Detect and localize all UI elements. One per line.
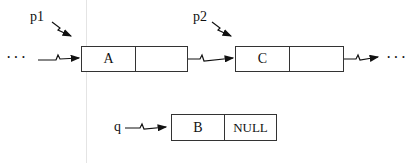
ellipsis-left: ··· <box>6 50 28 66</box>
pointer-label-p2: p2 <box>193 10 207 24</box>
pointer-label-q: q <box>114 120 121 134</box>
q-pointer-arrow <box>125 124 166 129</box>
node-next-cell <box>289 47 343 71</box>
list-node-C: C <box>235 46 344 72</box>
ellipsis-right: ··· <box>386 50 408 66</box>
p1-pointer-arrow <box>52 22 71 36</box>
pointer-label-p1: p1 <box>30 10 44 24</box>
node-data-cell: B <box>172 115 224 140</box>
node-next-cell: NULL <box>224 115 276 140</box>
node-data-cell: C <box>236 47 289 71</box>
p2-pointer-arrow <box>212 22 231 36</box>
incoming-arrow-to-A <box>38 55 79 60</box>
list-node-A: A <box>81 46 188 72</box>
node-data-cell: A <box>82 47 135 71</box>
list-node-B: B NULL <box>171 114 277 141</box>
node-next-cell <box>135 47 187 71</box>
